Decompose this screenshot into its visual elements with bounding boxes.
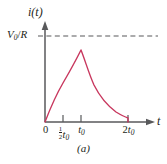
x-axis-arrowhead [146,119,155,126]
xtick-label-zero: 0 [41,125,50,136]
half-t-subscript: 0 [65,133,69,142]
plot-canvas [0,0,167,164]
y-axis-label: i(t) [28,6,43,18]
2t0-subscript: 0 [131,128,135,137]
asymptote-level-label: V0/R [7,29,27,42]
figure-current-vs-time: i(t) t V0/R 0 12t0 t0 2t0 (a) [0,0,167,164]
y-axis-arrowhead [42,21,49,30]
t0-subscript: 0 [81,128,85,137]
xtick-label-t0: t0 [73,125,90,137]
asymptote-r-symbol: R [21,28,28,40]
current-curve [45,50,128,122]
asymptote-v-symbol: V [7,28,14,40]
xtick-label-2t0: 2t0 [117,125,140,137]
figure-caption: (a) [0,143,167,154]
x-axis-label: t [157,115,160,127]
